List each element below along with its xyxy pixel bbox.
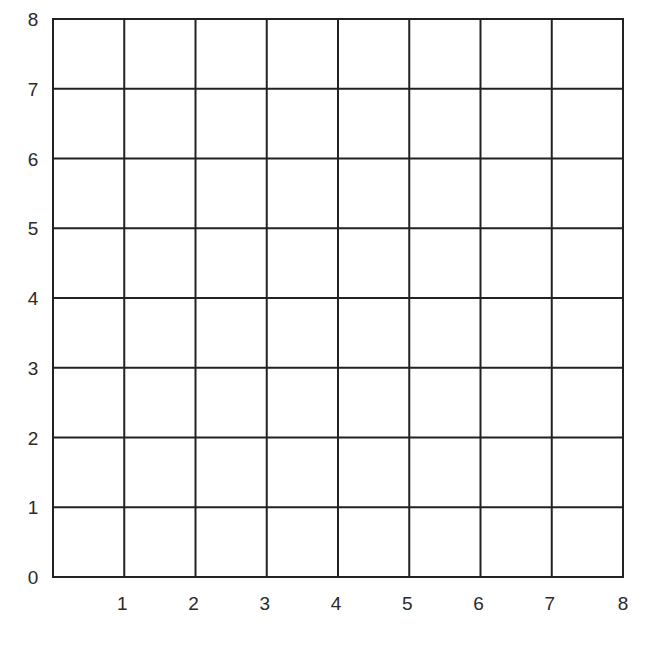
- y-tick-label: 3: [28, 358, 39, 379]
- x-tick-label: 4: [331, 593, 342, 614]
- x-tick-label: 8: [618, 593, 629, 614]
- grid-lines: [53, 19, 623, 577]
- y-tick-label: 6: [28, 149, 39, 170]
- y-tick-label: 7: [28, 79, 39, 100]
- x-tick-label: 3: [259, 593, 270, 614]
- x-tick-label: 7: [544, 593, 555, 614]
- y-tick-label: 5: [28, 218, 39, 239]
- x-tick-label: 6: [473, 593, 484, 614]
- y-tick-label: 2: [28, 428, 39, 449]
- y-axis-labels: 012345678: [28, 9, 39, 588]
- y-tick-label: 8: [28, 9, 39, 30]
- y-tick-label: 1: [28, 497, 39, 518]
- x-tick-label: 5: [402, 593, 413, 614]
- x-tick-label: 1: [117, 593, 128, 614]
- coordinate-grid: 012345678 12345678: [0, 0, 647, 654]
- y-tick-label: 4: [28, 288, 39, 309]
- x-axis-labels: 12345678: [117, 593, 628, 614]
- x-tick-label: 2: [188, 593, 199, 614]
- y-tick-label: 0: [28, 567, 39, 588]
